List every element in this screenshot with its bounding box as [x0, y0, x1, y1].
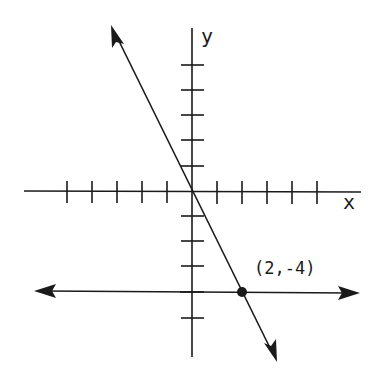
- coordinate-plane: [0, 0, 383, 378]
- arrowhead-up-icon: [111, 25, 124, 48]
- line-y-equals-neg4: [44, 291, 350, 293]
- line-y-equals-neg2x: [116, 35, 272, 352]
- intersection-point: [237, 287, 247, 297]
- graph-figure: y x (2,-4): [0, 0, 383, 378]
- arrowhead-down-icon: [264, 339, 277, 362]
- y-axis-label: y: [201, 24, 213, 48]
- point-label: (2,-4): [254, 258, 315, 278]
- x-axis-label: x: [343, 190, 355, 214]
